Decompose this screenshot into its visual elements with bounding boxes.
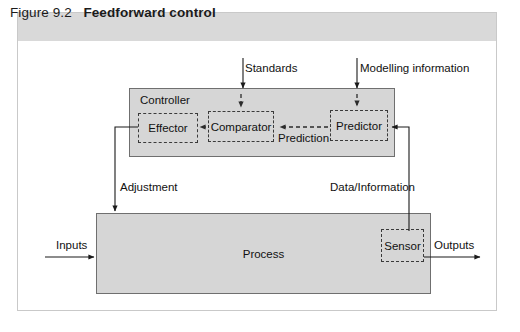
effector-label: Effector (138, 113, 198, 143)
controller-label: Controller (140, 95, 190, 107)
predictor-label: Predictor (330, 110, 388, 141)
figure-container: Figure 9.2 Feedforward control (0, 0, 520, 332)
prediction-label: Prediction (278, 133, 329, 145)
inputs-label: Inputs (56, 240, 87, 252)
standards-label: Standards (245, 63, 297, 75)
outputs-label: Outputs (434, 240, 474, 252)
comparator-label: Comparator (206, 111, 276, 142)
adjustment-label: Adjustment (120, 182, 178, 194)
modelling-information-label: Modelling information (360, 63, 469, 75)
diagram-canvas: Controller Effector Comparator Predictor… (0, 0, 520, 332)
data-information-label: Data/Information (330, 182, 415, 194)
sensor-label: Sensor (381, 229, 424, 262)
